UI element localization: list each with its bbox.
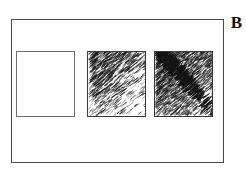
texture-diagonal-dense-speckle: [155, 52, 212, 116]
texture-tile-blank: [16, 51, 75, 117]
texture-tile-medium: [87, 51, 146, 117]
texture-tile-dense: [154, 51, 213, 117]
panel-letter-label: B: [231, 14, 242, 31]
figure-panel: B: [0, 0, 246, 174]
texture-blank: [17, 52, 74, 116]
texture-diagonal-dashes: [88, 52, 145, 116]
